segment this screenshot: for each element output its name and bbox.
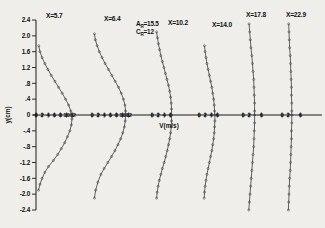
series-label: X=22.9 xyxy=(286,11,306,18)
y-axis-tick-label: 2.0 xyxy=(22,32,31,39)
y-axis-title: y(cm) xyxy=(4,106,12,123)
profile-curve xyxy=(204,46,215,198)
y-axis-tick-label: 2.4 xyxy=(22,16,31,23)
y-axis-tick-label: 1.2 xyxy=(22,64,31,71)
series-label: X=10.2 xyxy=(168,19,188,26)
series-label: X=6.4 xyxy=(104,15,121,22)
velocity-profile-figure: 2.42.01.61.2.8.40-.4-.8-1.2-1.6-2.0-2.4y… xyxy=(0,0,325,228)
y-axis-tick-label: -.8 xyxy=(23,143,31,150)
series-group: 024681012X=6.4 xyxy=(90,15,132,199)
y-axis-tick-label: -1.2 xyxy=(20,159,31,166)
series-label: X=14.0 xyxy=(212,21,232,28)
y-axis-tick-label: -2.0 xyxy=(20,190,31,197)
y-axis-tick-label: -1.6 xyxy=(20,175,31,182)
annotation-value: =12 xyxy=(144,28,155,35)
x-axis-title: V(m/s) xyxy=(159,122,179,130)
y-axis-tick-label: 1.6 xyxy=(22,48,31,55)
series-group: 024681012X=5.7 xyxy=(34,12,76,191)
y-axis-tick-label: -2.4 xyxy=(20,206,31,213)
annotation-text: CR=12 xyxy=(136,28,154,37)
annotation-value: =15.5 xyxy=(144,20,160,27)
series-group: 026X=17.8 xyxy=(241,11,266,211)
y-axis-tick-label: .8 xyxy=(25,80,31,87)
series-label: X=5.7 xyxy=(46,12,63,19)
y-axis-tick-label: -.4 xyxy=(23,127,31,134)
y-axis-tick-label: .4 xyxy=(25,95,31,102)
y-axis-tick-label: 0 xyxy=(27,111,31,118)
series-group: 0246X=10.2 xyxy=(150,19,188,199)
series-label: X=17.8 xyxy=(246,11,266,18)
plot-canvas: 2.42.01.61.2.8.40-.4-.8-1.2-1.6-2.0-2.4y… xyxy=(0,0,325,228)
series-group: 0246X=14.0 xyxy=(197,21,232,199)
series-group: 026X=22.9 xyxy=(280,11,306,211)
